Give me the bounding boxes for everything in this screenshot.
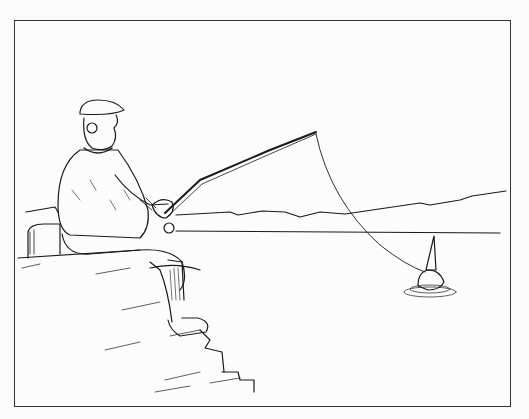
fishing-illustration: [0, 0, 529, 419]
water-line: [176, 231, 500, 233]
man-thigh: [62, 234, 185, 290]
man-shin: [150, 262, 172, 322]
left-hill: [26, 207, 58, 212]
man-torso: [58, 150, 148, 238]
reel: [164, 223, 174, 233]
man-boot: [168, 318, 208, 336]
fishing-line: [316, 134, 425, 272]
man-cap: [80, 100, 124, 115]
man-ear: [87, 123, 97, 133]
horizon-hills: [176, 191, 506, 217]
horn: [426, 236, 436, 270]
